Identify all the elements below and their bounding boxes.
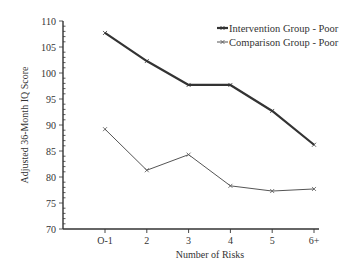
legend: Intervention Group - PoorComparison Grou…: [217, 23, 339, 48]
y-tick-label: 110: [41, 16, 56, 27]
y-tick-label: 100: [41, 68, 56, 79]
line-chart: 707580859095100105110 O-123456+ Interven…: [0, 0, 346, 275]
x-tick-label: 2: [144, 235, 149, 246]
x-axis: O-123456+: [63, 229, 320, 246]
y-tick-label: 80: [46, 172, 56, 183]
y-axis: 707580859095100105110: [41, 16, 66, 235]
legend-label: Intervention Group - Poor: [229, 23, 339, 34]
y-tick-label: 105: [41, 42, 56, 53]
x-axis-title: Number of Risks: [176, 249, 244, 260]
x-tick-label: 6+: [309, 235, 320, 246]
legend-label: Comparison Group - Poor: [229, 37, 339, 48]
y-tick-label: 90: [46, 120, 56, 131]
y-tick-label: 85: [46, 146, 56, 157]
y-tick-label: 95: [46, 94, 56, 105]
y-tick-label: 70: [46, 224, 56, 235]
x-tick-label: 4: [228, 235, 233, 246]
series-line-0: [105, 33, 314, 145]
y-tick-label: 75: [46, 198, 56, 209]
y-axis-title: Adjusted 36-Month IQ Score: [19, 66, 30, 183]
x-tick-label: O-1: [97, 235, 113, 246]
series-lines: [103, 31, 316, 193]
data-point-marker: [103, 127, 107, 131]
x-tick-label: 3: [186, 235, 191, 246]
series-line-1: [105, 129, 314, 191]
x-tick-label: 5: [270, 235, 275, 246]
